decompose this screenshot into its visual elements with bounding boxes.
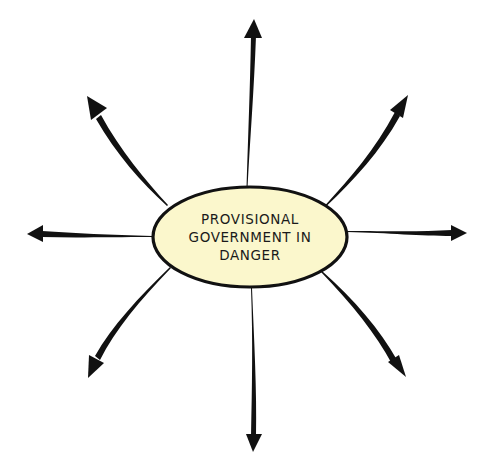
arrow-down-left [88,267,171,378]
arrow-up [244,19,262,188]
arrow-right [347,225,467,241]
arrow-up-left [87,96,168,206]
arrow-left [27,225,152,242]
arrow-up-right [326,95,409,206]
spider-diagram [0,0,484,467]
arrow-down-right [321,271,406,377]
arrow-down [246,288,262,452]
central-hub-ellipse [153,187,347,287]
